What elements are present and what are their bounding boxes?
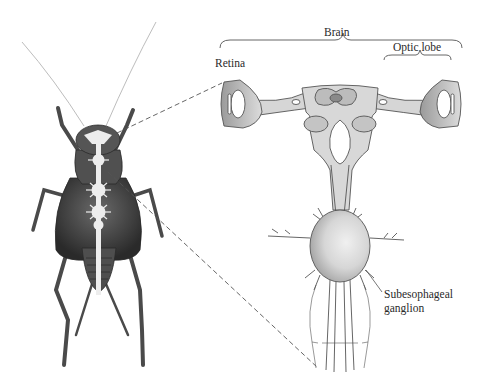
label-ganglion: ganglion xyxy=(384,302,424,315)
label-optic-lobe: Optic lobe xyxy=(393,41,441,54)
projection-line-lower xyxy=(108,172,318,368)
subesophageal-leader-line xyxy=(366,270,382,292)
subesophageal-ganglion xyxy=(310,210,370,282)
diagram-canvas: Brain Retina Optic lobe Subesophageal ga… xyxy=(0,0,486,387)
label-subesophageal: Subesophageal xyxy=(384,288,453,301)
antenna-left xyxy=(22,42,84,126)
label-brain: Brain xyxy=(324,26,350,39)
label-retina: Retina xyxy=(215,57,245,70)
cricket-illustration xyxy=(22,22,162,365)
projection-line-upper xyxy=(117,83,222,133)
brain-illustration xyxy=(221,80,461,372)
